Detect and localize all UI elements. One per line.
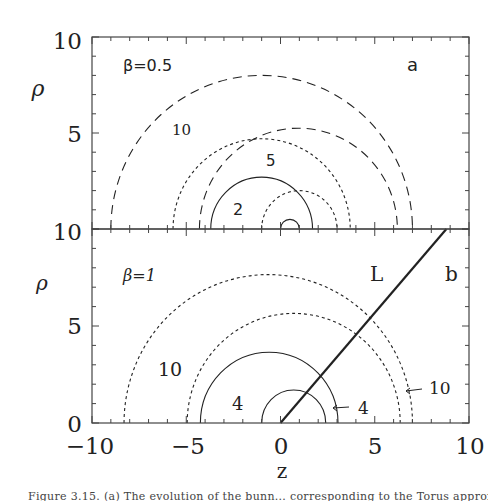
arrow-label-4: 4 — [358, 398, 369, 418]
curve-5 — [173, 139, 350, 229]
x-tick-label-5: 5 — [368, 433, 383, 459]
figure-caption: Figure 3.15. (a) The evolution of the bu… — [28, 490, 488, 501]
y-tick-label-top-10: 10 — [53, 28, 82, 54]
curve-label-a-10: 10 — [172, 121, 191, 139]
curve-2 — [211, 177, 313, 229]
curve-2-second- — [281, 219, 300, 229]
curve-10 — [124, 275, 412, 423]
panel-letter-b: b — [445, 262, 458, 286]
x-axis-label: z — [277, 459, 288, 483]
y-tick-label-top-5: 5 — [67, 121, 82, 147]
y-axis-label-bottom: ρ — [35, 271, 48, 295]
curve-label-a-5: 5 — [266, 152, 276, 170]
curve-4 — [200, 352, 338, 423]
curve-label-b-4: 4 — [232, 393, 243, 414]
panel-a — [111, 75, 413, 229]
curve-10 — [111, 75, 413, 229]
curve-label-b-10: 10 — [158, 358, 182, 380]
curve-label-a-2: 2 — [233, 200, 243, 219]
curve-l — [281, 229, 447, 423]
arrow-icon-4 — [333, 405, 349, 411]
arrow-label-10: 10 — [429, 378, 451, 398]
curve-5-second- — [262, 191, 337, 229]
y-tick-label-bottom-5: 5 — [67, 313, 82, 339]
x-tick-label-neg10: −10 — [66, 433, 115, 459]
line-label-L: L — [370, 262, 383, 286]
x-tick-label-10: 10 — [455, 433, 484, 459]
x-tick-label-0: 0 — [274, 433, 289, 459]
curve-10-second- — [199, 128, 397, 229]
y-tick-label-mid-10: 10 — [53, 219, 82, 245]
beta-label-b: β=1 — [122, 266, 156, 285]
panel-b — [124, 229, 446, 423]
beta-label-a: β=0.5 — [123, 56, 172, 75]
y-axis-label-top: ρ — [31, 76, 45, 101]
panel-letter-a: a — [407, 54, 418, 75]
figure: 10 5 10 5 0 −10 −5 0 5 10 z ρ ρ β=0.5 a … — [0, 0, 504, 501]
arrow-icon-10 — [406, 388, 422, 394]
x-tick-label-neg5: −5 — [171, 433, 205, 459]
ticks — [92, 37, 469, 423]
